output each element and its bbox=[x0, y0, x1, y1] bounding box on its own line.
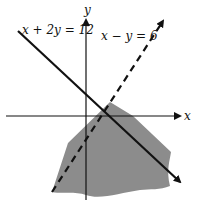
label-solid-line: x + 2y = 12 bbox=[22, 23, 94, 37]
inequality-graph: x + 2y = 12 x − y = 6 x y bbox=[0, 0, 197, 202]
y-axis-label: y bbox=[83, 3, 91, 17]
label-dashed-line: x − y = 6 bbox=[101, 29, 158, 43]
x-axis-label: x bbox=[184, 109, 191, 123]
graph-canvas: x + 2y = 12 x − y = 6 x y bbox=[0, 0, 197, 202]
